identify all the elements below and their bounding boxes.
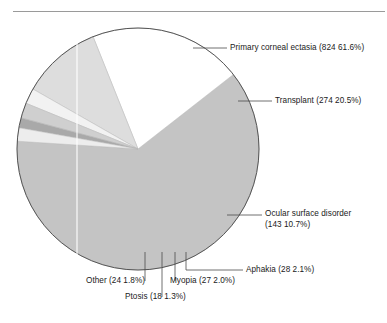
callout-label-ocular-surface-disorder-value: (143 10.7%) [265, 220, 310, 231]
figure-root: Primary corneal ectasia (824 61.6%) Tran… [0, 0, 387, 323]
callout-label-transplant: Transplant (274 20.5%) [275, 96, 361, 107]
callout-label-ptosis: Ptosis (18 1.3%) [125, 292, 186, 303]
callout-label-myopia: Myopia (27 2.0%) [170, 276, 235, 287]
callout-label-ocular-surface-disorder: Ocular surface disorder [265, 209, 351, 220]
callout-label-primary-corneal-ectasia: Primary corneal ectasia (824 61.6%) [230, 43, 364, 54]
pie-slices-group [17, 28, 259, 270]
callout-label-aphakia: Aphakia (28 2.1%) [246, 265, 314, 276]
callout-label-other: Other (24 1.8%) [86, 276, 145, 287]
